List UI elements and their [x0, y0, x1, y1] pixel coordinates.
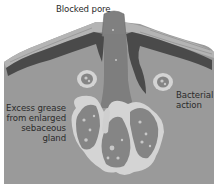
blocked-pore-diagram: Blocked pore Bacterial action Excess gre…	[0, 0, 220, 191]
label-bacterial-action-line-2: action	[176, 100, 213, 110]
label-blocked-pore: Blocked pore	[56, 4, 111, 14]
label-bacterial-action: Bacterial action	[176, 90, 213, 110]
label-excess-grease-line-2: from enlarged	[2, 113, 66, 123]
label-excess-grease-line-3: sebaceous	[2, 123, 66, 133]
label-bacterial-action-line-1: Bacterial	[176, 90, 213, 100]
bacterial-cell-right	[153, 73, 173, 91]
label-excess-grease-line-4: gland	[2, 133, 66, 143]
label-excess-grease: Excess grease from enlarged sebaceous gl…	[2, 103, 66, 143]
label-excess-grease-line-1: Excess grease	[2, 103, 66, 113]
bacterial-cell-left	[77, 70, 97, 88]
pore-plug-head	[102, 11, 126, 38]
